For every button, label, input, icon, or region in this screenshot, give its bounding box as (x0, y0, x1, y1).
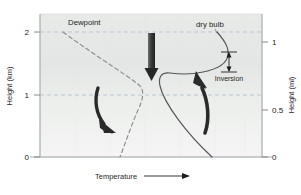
left-tick-0: 0 (25, 153, 30, 162)
dewpoint-label: Dewpoint (68, 18, 101, 27)
weather-inversion-figure: 2 1 0 1 0.5 0 Height (km) Height (mi) Te… (0, 0, 301, 195)
left-axis-label: Height (km) (5, 66, 14, 105)
dry-bulb-label: dry bulb (196, 20, 224, 29)
left-tick-2: 2 (25, 28, 30, 37)
left-tick-1: 1 (25, 91, 30, 100)
right-tick-0: 0 (272, 153, 277, 162)
inversion-label: Inversion (215, 75, 244, 82)
bottom-axis-label: Temperature (95, 172, 137, 181)
chart-canvas: 2 1 0 1 0.5 0 Height (km) Height (mi) Te… (0, 0, 301, 195)
right-axis-label: Height (mi) (287, 76, 296, 113)
right-tick-1: 1 (272, 38, 277, 47)
right-tick-05: 0.5 (272, 106, 284, 115)
